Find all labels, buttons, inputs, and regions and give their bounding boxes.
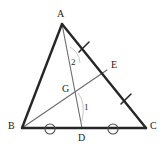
geometry-figure: A B C D E G 2 1 xyxy=(0,0,167,150)
vertex-label-D: D xyxy=(78,133,85,143)
angle-arc-1 xyxy=(78,93,83,121)
vertex-label-E: E xyxy=(111,60,117,70)
side-AB xyxy=(22,24,62,128)
vertex-label-B: B xyxy=(8,121,15,131)
geometry-canvas xyxy=(0,0,167,150)
cevian-BE xyxy=(22,70,107,128)
vertex-label-A: A xyxy=(57,9,64,19)
vertex-label-C: C xyxy=(150,121,157,131)
vertex-label-G: G xyxy=(62,84,69,94)
cevian-AD xyxy=(62,24,82,128)
angle-label-1: 1 xyxy=(84,103,89,112)
angle-label-2: 2 xyxy=(71,58,76,67)
side-AC xyxy=(62,24,146,128)
